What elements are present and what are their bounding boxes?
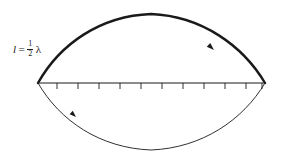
equals-sign: = xyxy=(19,44,25,55)
axis-tick-group xyxy=(57,83,262,89)
upper-arc xyxy=(38,14,265,83)
fraction-numerator: 1 xyxy=(27,40,33,48)
length-label: l = 1 2 λ xyxy=(13,40,41,59)
length-symbol: l xyxy=(13,44,16,55)
lower-arc xyxy=(38,83,265,150)
lower-arc-direction-arrow-icon xyxy=(70,111,78,119)
fraction-denominator: 2 xyxy=(27,50,33,58)
figure-root: l = 1 2 λ xyxy=(0,0,290,159)
upper-arc-direction-arrow-icon xyxy=(207,43,216,52)
one-half-fraction: 1 2 xyxy=(27,40,33,59)
standing-wave-diagram xyxy=(0,0,290,159)
lambda-symbol: λ xyxy=(36,44,41,55)
